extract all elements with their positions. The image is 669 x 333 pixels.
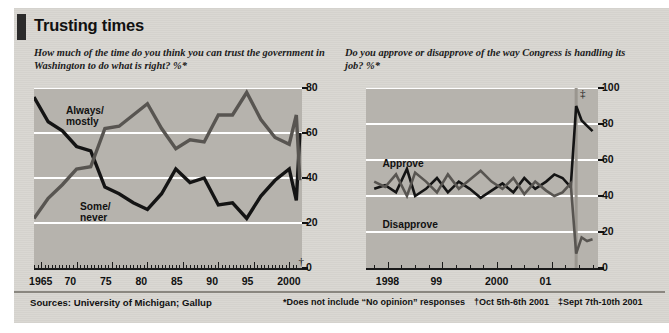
x-minor-tick [108,265,109,268]
x-minor-tick [275,265,276,268]
x-minor-tick [233,265,234,268]
x-tick-label: 2000 [277,275,300,287]
x-minor-tick [38,265,39,268]
x-minor-tick [388,262,389,268]
x-minor-tick [497,262,498,268]
x-tick-label: 1965 [29,275,52,287]
left-chart-subtitle: How much of the time do you think you ca… [34,47,334,72]
footnote-marker: † [298,255,304,267]
x-minor-tick [204,265,205,268]
x-minor-tick [211,265,212,268]
x-minor-tick [222,265,223,268]
x-minor-tick [225,265,226,268]
x-minor-tick [77,262,78,268]
y-tick-mark [302,267,308,269]
x-minor-tick [197,265,198,268]
y-tick-label: 100 [602,81,620,93]
x-minor-tick [565,265,566,268]
x-minor-tick [524,265,525,268]
x-minor-tick [229,265,230,268]
x-minor-tick [151,265,152,268]
x-minor-tick [66,265,67,268]
x-minor-tick [126,265,127,268]
x-minor-tick [194,265,195,268]
x-minor-tick [147,262,148,268]
page-margin-bottom [0,323,669,333]
x-minor-tick [415,265,416,268]
x-minor-tick [272,265,273,268]
x-minor-tick [243,265,244,268]
x-minor-tick [119,265,120,268]
y-tick-mark [598,231,604,233]
chart-figure: Trusting times How much of the time do y… [0,0,669,333]
footnote-marker: ‡ [580,87,586,99]
y-tick-mark [598,195,604,197]
x-minor-tick [101,265,102,268]
x-minor-tick [112,262,113,268]
x-minor-tick [144,265,145,268]
right-chart-panel [366,88,598,268]
x-minor-tick [59,265,60,268]
x-minor-tick [179,265,180,268]
x-minor-tick [289,262,290,268]
x-minor-tick [240,265,241,268]
right-chart-subtitle: Do you approve or disapprove of the way … [345,47,635,72]
x-minor-tick [105,265,106,268]
x-minor-tick [48,265,49,268]
series-line-approve [374,106,592,198]
x-minor-tick [190,265,191,268]
x-minor-tick [429,265,430,268]
x-minor-tick [218,262,219,268]
x-minor-tick [593,265,594,268]
x-minor-tick [169,265,170,268]
page-margin-left [0,0,14,333]
x-minor-tick [296,265,297,268]
gridline [34,132,302,134]
x-minor-tick [55,265,56,268]
series-label-approve: Approve [382,158,423,169]
x-axis-line [34,268,308,270]
x-minor-tick [538,265,539,268]
x-minor-tick [94,265,95,268]
x-minor-tick [91,265,92,268]
x-tick-label: 70 [65,275,77,287]
x-minor-tick [123,265,124,268]
x-minor-tick [247,265,248,268]
series-line-disapprove [374,171,592,254]
x-minor-tick [165,265,166,268]
x-minor-tick [456,265,457,268]
x-minor-tick [254,262,255,268]
x-minor-tick [279,265,280,268]
y-tick-mark [598,267,604,269]
y-tick-mark [302,222,308,224]
x-minor-tick [293,265,294,268]
y-tick-mark [598,87,604,89]
series-label-some-never: Some/never [80,201,111,223]
page-title: Trusting times [34,16,144,35]
x-tick-label: 95 [242,275,254,287]
x-minor-tick [69,265,70,268]
x-minor-tick [483,265,484,268]
x-minor-tick [116,265,117,268]
right-chart-svg [366,88,598,268]
x-minor-tick [401,265,402,268]
x-minor-tick [84,265,85,268]
y-tick-mark [598,123,604,125]
x-minor-tick [201,265,202,268]
x-minor-tick [52,265,53,268]
footnote-doubledagger: ‡Sept 7th-10th 2001 [558,297,643,307]
x-minor-tick [183,262,184,268]
x-minor-tick [140,265,141,268]
x-minor-tick [470,265,471,268]
x-tick-label: 01 [540,275,552,287]
x-minor-tick [137,265,138,268]
x-minor-tick [208,265,209,268]
x-minor-tick [236,265,237,268]
footnote-dagger: †Oct 5th-6th 2001 [474,297,549,307]
gridline [366,231,598,233]
gridline [366,123,598,125]
x-tick-label: 75 [100,275,112,287]
y-tick-mark [302,87,308,89]
x-minor-tick [374,265,375,268]
gridline [366,88,598,89]
